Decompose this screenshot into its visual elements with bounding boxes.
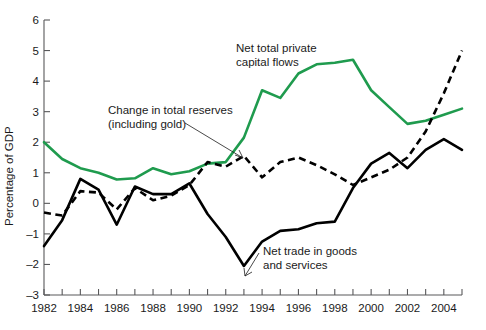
x-tick-label: 1986 <box>104 302 130 314</box>
x-tick-label: 1988 <box>140 302 166 314</box>
annotation-net-total-private-capital-flows: Net total private capital flows <box>236 42 317 68</box>
y-tick-label: 5 <box>33 45 39 57</box>
leader-line-total-reserves <box>185 123 243 158</box>
y-axis-title: Percentage of GDP <box>3 126 15 226</box>
x-tick-label: 1990 <box>177 302 203 314</box>
y-tick-label: –3 <box>26 289 39 301</box>
annotation-leaders <box>185 123 259 276</box>
x-tick-label: 1998 <box>322 302 348 314</box>
x-tick-label: 1992 <box>213 302 239 314</box>
annotation-line-1: Net total private <box>236 42 317 54</box>
x-tick-label: 1996 <box>286 302 312 314</box>
annotation-line-2: (including gold) <box>108 118 186 130</box>
series-change-in-total-reserves <box>44 51 462 216</box>
leader-arrow-net-trade <box>244 268 252 276</box>
x-axis-tick-labels: 1982198419861988199019921994199619982000… <box>31 302 457 314</box>
annotation-line-2: and services <box>263 259 328 271</box>
annotation-line-1: Net trade in goods <box>263 245 357 257</box>
y-tick-label: 3 <box>33 106 39 118</box>
y-tick-label: –1 <box>26 228 39 240</box>
x-tick-label: 1982 <box>31 302 57 314</box>
x-tick-label: 1984 <box>68 302 94 314</box>
y-tick-label: 6 <box>33 14 39 26</box>
y-tick-label: 2 <box>33 136 39 148</box>
y-axis-tick-labels: –3–2–10123456 <box>26 14 39 301</box>
line-chart: Percentage of GDP –3–2–10123456 19821984… <box>0 0 486 330</box>
y-tick-label: 0 <box>33 197 39 209</box>
y-tick-label: 1 <box>33 167 39 179</box>
series-net-trade-in-goods-and-services <box>44 139 462 266</box>
x-tick-label: 2004 <box>431 302 457 314</box>
y-tick-label: 4 <box>33 75 40 87</box>
annotation-line-1: Change in total reserves <box>108 104 233 116</box>
annotation-change-in-total-reserves: Change in total reserves (including gold… <box>108 104 233 130</box>
x-tick-label: 2000 <box>358 302 384 314</box>
annotation-line-2: capital flows <box>236 56 299 68</box>
series-layer <box>44 51 462 266</box>
y-axis-ticks <box>44 20 50 295</box>
annotation-net-trade-in-goods-and-services: Net trade in goods and services <box>263 245 357 271</box>
y-tick-label: –2 <box>26 258 39 270</box>
x-axis-ticks <box>44 289 462 295</box>
x-tick-label: 1994 <box>249 302 275 314</box>
chart-container: Percentage of GDP –3–2–10123456 19821984… <box>0 0 486 330</box>
x-tick-label: 2002 <box>395 302 421 314</box>
